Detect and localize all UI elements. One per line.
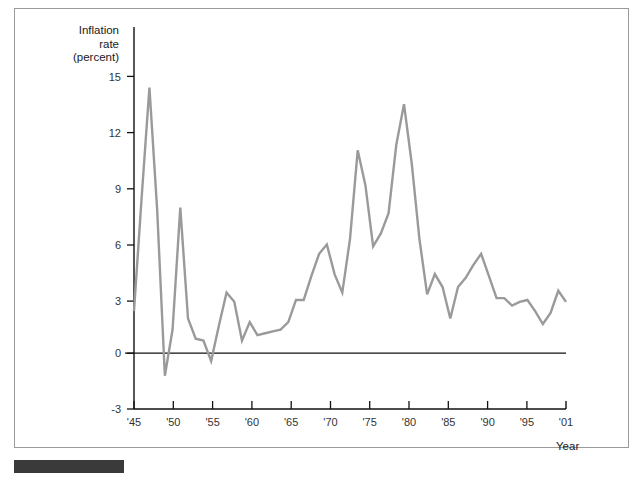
y-tick-label: 0 [115, 347, 121, 359]
y-axis-ticks [127, 76, 134, 409]
y-axis-tick-labels: 15 12 9 6 3 0 -3 [109, 71, 121, 416]
y-tick-label: 15 [109, 71, 121, 83]
y-axis-title: Inflation rate (percent) [33, 24, 119, 65]
caption-bar [14, 460, 124, 473]
x-tick-label: '60 [245, 416, 259, 428]
x-tick-label: '70 [323, 416, 337, 428]
y-tick-label: -3 [111, 403, 121, 415]
x-tick-label: '45 [127, 416, 141, 428]
y-tick-label: 6 [115, 239, 121, 251]
figure-root: 15 12 9 6 3 0 -3 [0, 0, 643, 477]
inflation-rate-line-chart: 15 12 9 6 3 0 -3 [15, 9, 628, 447]
chart-frame: 15 12 9 6 3 0 -3 [14, 8, 629, 448]
x-axis-ticks [134, 401, 527, 409]
y-axis-title-line1: Inflation [33, 24, 119, 38]
x-tick-label: '50 [166, 416, 180, 428]
x-tick-label: '80 [402, 416, 416, 428]
y-tick-label: 9 [115, 183, 121, 195]
x-axis-title: Year [556, 440, 616, 454]
x-tick-label: '65 [284, 416, 298, 428]
y-axis-title-line3: (percent) [33, 51, 119, 65]
y-tick-label: 3 [115, 295, 121, 307]
inflation-rate-series-line [134, 87, 566, 375]
x-tick-label: '55 [205, 416, 219, 428]
x-tick-label: '90 [480, 416, 494, 428]
x-tick-label: '85 [441, 416, 455, 428]
x-tick-label: '01 [559, 416, 573, 428]
x-tick-label: '95 [520, 416, 534, 428]
x-axis-tick-labels: '45 '50 '55 '60 '65 '70 '75 '80 '85 '90 … [127, 416, 573, 428]
y-tick-label: 12 [109, 127, 121, 139]
x-tick-label: '75 [363, 416, 377, 428]
y-axis-title-line2: rate [33, 38, 119, 52]
